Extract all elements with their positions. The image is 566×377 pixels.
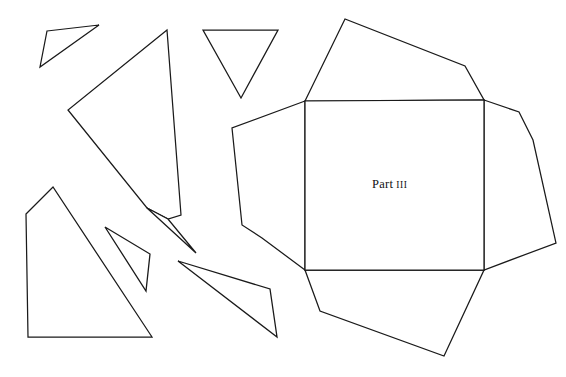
net-right-flap: [484, 100, 556, 270]
shape-group: [26, 19, 556, 356]
small-triangle-top-left: [40, 25, 99, 67]
part-label-word: Part: [372, 177, 393, 191]
net-left-flap: [232, 101, 305, 270]
inverted-triangle-top: [203, 30, 278, 98]
net-top-flap: [305, 19, 484, 101]
geometry-figure: PartIII: [0, 0, 566, 377]
large-quadrilateral-left: [68, 30, 181, 219]
net-bottom-flap: [305, 270, 484, 356]
thin-sliver-right: [178, 261, 277, 337]
polygon-canvas: [0, 0, 566, 377]
part-label: PartIII: [372, 174, 408, 192]
part-label-numeral: III: [396, 180, 407, 190]
